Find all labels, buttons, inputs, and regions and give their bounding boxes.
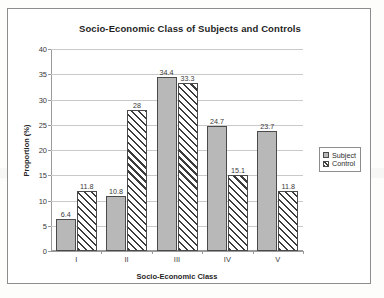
scanned-page: Socio-Economic Class of Subjects and Con… [0,0,384,298]
bar-subject-IV: 24.7 [207,126,227,251]
chart-title: Socio-Economic Class of Subjects and Con… [8,23,372,34]
x-tick-label-IV: IV [224,255,231,264]
y-axis-title: Proportion (%) [20,49,32,251]
bar-control-II: 28 [127,110,147,251]
bar-value-label: 28 [133,101,141,110]
y-tick-label: 0 [43,247,47,256]
x-tick-mark [152,251,153,254]
y-tick-label: 10 [39,196,47,205]
bar-control-III: 33.3 [178,83,198,251]
y-tick-mark [48,201,51,202]
bar-value-label: 10.8 [109,187,123,196]
x-tick-mark [101,251,102,254]
y-tick-label: 40 [39,45,47,54]
bar-value-label: 15.1 [231,166,245,175]
legend-label: Subject [332,152,356,159]
x-tick-label-I: I [75,255,77,264]
bar-value-label: 24.7 [210,117,224,126]
x-tick-mark [253,251,254,254]
y-tick-mark [48,100,51,101]
y-tick-label: 30 [39,95,47,104]
y-tick-label: 35 [39,70,47,79]
x-tick-mark [202,251,203,254]
plot-area: 0510152025303540 6.411.810.82834.433.324… [51,49,303,251]
y-tick-label: 25 [39,120,47,129]
bar-subject-I: 6.4 [56,219,76,251]
bar-value-label: 33.3 [181,74,195,83]
bar-value-label: 23.7 [260,122,274,131]
x-axis-title: Socio-Economic Class [51,272,303,281]
y-tick-mark [48,125,51,126]
x-tick-label-III: III [174,255,180,264]
y-tick-mark [48,251,51,252]
bar-control-IV: 15.1 [228,175,248,251]
y-tick-label: 5 [43,221,47,230]
y-tick-mark [48,226,51,227]
bar-value-label: 11.8 [80,182,93,191]
legend-swatch-icon [323,161,329,167]
gridline [51,74,303,75]
bar-control-V: 11.8 [278,191,298,251]
bar-value-label: 34.4 [160,68,174,77]
bar-subject-III: 34.4 [157,77,177,251]
bar-subject-II: 10.8 [106,196,126,251]
gridline [51,49,303,50]
bar-subject-V: 23.7 [257,131,277,251]
y-tick-mark [48,150,51,151]
y-tick-label: 20 [39,146,47,155]
y-tick-mark [48,175,51,176]
bar-value-label: 6.4 [61,210,71,219]
y-axis-title-label: Proportion (%) [22,124,31,176]
y-tick-mark [48,49,51,50]
x-tick-mark [303,251,304,254]
x-tick-label-II: II [125,255,129,264]
legend-label: Control [332,160,355,167]
gridline [51,251,303,252]
y-tick-mark [48,74,51,75]
chart-legend: SubjectControl [319,147,361,172]
legend-item-subject: Subject [323,152,356,159]
legend-item-control: Control [323,160,356,167]
bar-value-label: 11.8 [282,182,295,191]
bar-control-I: 11.8 [77,191,97,251]
legend-swatch-icon [323,152,329,158]
y-tick-label: 15 [39,171,47,180]
figure-frame: Socio-Economic Class of Subjects and Con… [7,8,371,284]
x-tick-label-V: V [275,255,280,264]
